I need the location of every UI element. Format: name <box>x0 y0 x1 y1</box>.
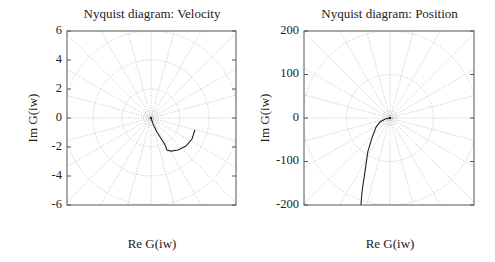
origin-marker <box>389 117 392 120</box>
polar-grid <box>260 0 495 249</box>
plot-area-position <box>0 0 495 262</box>
